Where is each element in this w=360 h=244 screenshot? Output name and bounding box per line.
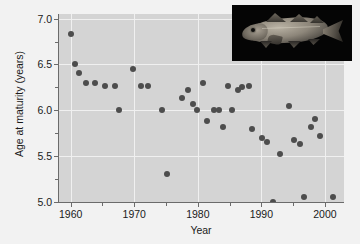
data-point [145, 83, 151, 89]
x-axis-tick [325, 203, 326, 207]
fish-ventral-fin-first [260, 41, 272, 48]
y-axis-minor-tick [55, 42, 58, 43]
x-axis-tick [134, 203, 135, 207]
y-axis-tick [54, 19, 58, 20]
x-axis-tick [71, 203, 72, 207]
data-point [239, 84, 245, 90]
gridline-vertical [71, 14, 72, 202]
data-point [246, 83, 252, 89]
y-axis-tick-label: 6.0 [22, 104, 52, 116]
data-point [225, 83, 231, 89]
y-axis-tick [54, 202, 58, 203]
x-axis-tick [261, 203, 262, 207]
fish-ventral-fin-second [288, 41, 301, 48]
y-axis-minor-tick [55, 87, 58, 88]
data-point [312, 116, 318, 122]
data-point [138, 83, 144, 89]
data-point [116, 107, 122, 113]
data-point [68, 31, 74, 37]
data-point [179, 95, 185, 101]
y-axis-minor-tick [55, 179, 58, 180]
y-axis-tick-label: 5.0 [22, 196, 52, 208]
y-axis-label: Age at maturity (years) [13, 29, 25, 179]
data-point [301, 194, 307, 200]
data-point [286, 103, 292, 109]
x-axis-tick-label: 1970 [123, 208, 146, 220]
data-point [130, 66, 136, 72]
data-point [308, 124, 314, 130]
x-axis-line [58, 202, 344, 203]
x-axis-label: Year [58, 224, 344, 236]
data-point [83, 80, 89, 86]
x-axis-minor-tick [102, 203, 103, 206]
x-axis-tick [198, 203, 199, 207]
data-point [159, 107, 165, 113]
data-point [190, 101, 196, 107]
data-point [112, 83, 118, 89]
cod-inset-photo [232, 5, 352, 61]
data-point [204, 118, 210, 124]
data-point [317, 133, 323, 139]
data-point [220, 124, 226, 130]
x-axis-tick-label: 1990 [250, 208, 273, 220]
data-point [194, 107, 200, 113]
gridline-vertical [134, 14, 135, 202]
data-point [297, 141, 303, 147]
gridline-horizontal [58, 110, 344, 111]
gridline-horizontal [58, 64, 344, 65]
data-point [102, 83, 108, 89]
y-axis-tick-label: 6.5 [22, 58, 52, 70]
y-axis-line [58, 14, 59, 202]
fish-eye [251, 28, 255, 32]
x-axis-tick-label: 2000 [313, 208, 336, 220]
data-point [264, 139, 270, 145]
data-point [185, 87, 191, 93]
y-axis-tick [54, 110, 58, 111]
data-point [200, 80, 206, 86]
x-axis-minor-tick [166, 203, 167, 206]
data-point [330, 194, 336, 200]
data-point [92, 80, 98, 86]
y-axis-minor-tick [55, 133, 58, 134]
x-axis-minor-tick [230, 203, 231, 206]
data-point [72, 61, 78, 67]
fish-ventral-fin-third [308, 39, 320, 45]
data-point [164, 171, 170, 177]
y-axis-tick-label: 7.0 [22, 13, 52, 25]
x-axis-tick-label: 1980 [186, 208, 209, 220]
y-axis-tick [54, 156, 58, 157]
data-point [216, 107, 222, 113]
x-axis-minor-tick [293, 203, 294, 206]
data-point [249, 126, 255, 132]
x-axis-tick-label: 1960 [59, 208, 82, 220]
figure-scatter-age-at-maturity: 196019701980199020005.05.56.06.57.0 Year… [0, 0, 360, 244]
data-point [229, 107, 235, 113]
data-point [76, 70, 82, 76]
y-axis-tick [54, 64, 58, 65]
y-axis-tick-label: 5.5 [22, 150, 52, 162]
gridline-horizontal [58, 156, 344, 157]
